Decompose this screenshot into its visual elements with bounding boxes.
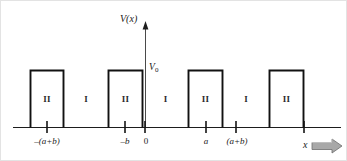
- tick-label-origin: 0: [144, 137, 149, 146]
- v-axis-arrowhead: [143, 21, 149, 30]
- region-label-well-1: I: [84, 95, 88, 104]
- x-direction-arrow: [312, 139, 342, 153]
- region-label-barrier-2: II: [122, 95, 129, 104]
- v-axis-label: V(x): [120, 14, 137, 24]
- tick-label-minus-b: –b: [121, 137, 130, 146]
- tick-label-a: a: [204, 137, 209, 146]
- potential-height-label: V0: [149, 63, 158, 73]
- region-label-barrier-3: II: [202, 95, 209, 104]
- potential-diagram-figure: V(x) V0 x –(a+b) –b 0 a (a+b) II II II I…: [0, 0, 347, 161]
- region-label-well-2: I: [164, 95, 168, 104]
- region-label-barrier-4: II: [283, 95, 290, 104]
- region-label-barrier-1: II: [43, 95, 50, 104]
- x-axis-label: x: [303, 140, 307, 150]
- region-label-well-3: I: [244, 95, 248, 104]
- tick-label-a-plus-b: (a+b): [226, 137, 247, 146]
- tick-label-minus-a-plus-b: –(a+b): [34, 137, 60, 146]
